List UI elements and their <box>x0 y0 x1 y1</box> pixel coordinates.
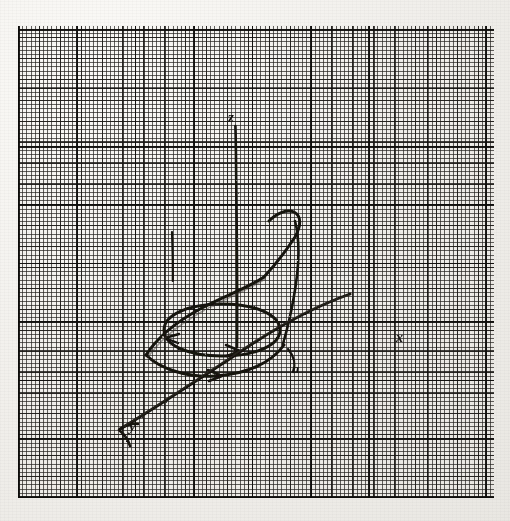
graph-paper-grid <box>18 26 494 498</box>
grid-mottling <box>18 26 494 498</box>
axis-label-y: y <box>129 419 136 434</box>
sketch-page: z x y a <box>0 0 510 521</box>
axis-label-z: z <box>228 110 234 125</box>
axis-label-x: x <box>396 331 403 345</box>
annotation-label-a: a <box>293 363 299 375</box>
